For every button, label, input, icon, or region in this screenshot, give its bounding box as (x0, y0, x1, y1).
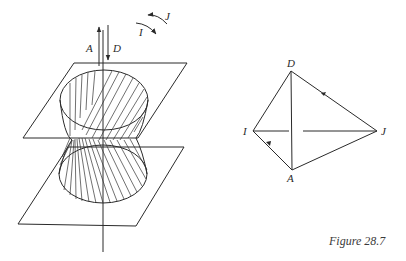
label-a-vertex: A (286, 172, 294, 184)
edge-d-i (253, 71, 291, 131)
label-i-rotation: I (138, 26, 144, 38)
edge-i-a (253, 131, 292, 170)
edge-d-j (291, 71, 377, 131)
label-j-vertex: J (381, 125, 387, 137)
diagonal-d-a (291, 71, 292, 170)
figure-caption: Figure 28.7 (328, 234, 386, 248)
label-j-rotation: J (165, 10, 171, 22)
label-a-left: A (85, 42, 93, 54)
upper-plane (23, 63, 187, 138)
quadrilateral-diagram: D I J A (242, 57, 387, 184)
edge-a-j (292, 131, 377, 170)
label-d-left: D (112, 42, 121, 54)
label-i-vertex: I (242, 125, 248, 137)
label-d-vertex: D (286, 57, 295, 69)
figure-canvas: A D J I (0, 0, 406, 261)
hyperboloid-diagram: A D J I (18, 10, 187, 252)
